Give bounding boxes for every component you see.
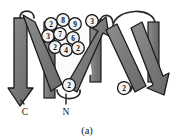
residue-circle: 2 (72, 42, 85, 55)
residue-circle: 9 (69, 18, 82, 31)
residue-circle: 4 (60, 44, 73, 57)
protein-topology-figure: 2 8 9 3 3 7 6 2 (0, 0, 174, 138)
residue-circle: 7 (54, 28, 67, 41)
residue-circle: 3 (86, 15, 99, 28)
residue-circle: 8 (57, 14, 70, 27)
figure-caption: (a) (81, 125, 93, 137)
residue-circle: 2 (63, 79, 76, 92)
terminus-label-group: C N (22, 107, 70, 117)
residue-circle: 3 (42, 30, 55, 43)
c-terminus-label: C (22, 107, 28, 117)
n-terminus-label: N (63, 107, 70, 117)
residue-circle: 2 (45, 18, 58, 31)
residue-circle: 2 (118, 82, 131, 95)
